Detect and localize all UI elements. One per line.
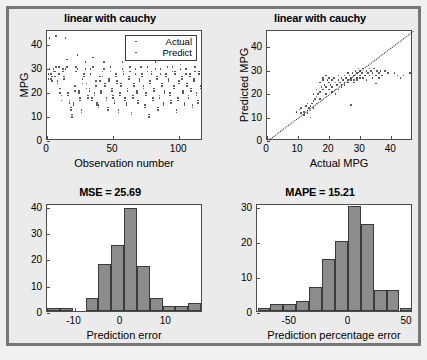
histogram-bar bbox=[86, 298, 99, 311]
scatter-point bbox=[145, 95, 147, 97]
scatter-point bbox=[359, 77, 361, 79]
y-tick-label: 20 bbox=[234, 237, 252, 248]
scatter-point bbox=[131, 112, 133, 114]
scatter-point bbox=[115, 73, 117, 75]
histogram-bar bbox=[309, 287, 322, 311]
y-tick-label: 10 bbox=[24, 111, 42, 122]
scatter-point bbox=[120, 83, 122, 85]
panel-4-title: MAPE = 15.21 bbox=[222, 186, 418, 198]
scatter-point bbox=[104, 83, 106, 85]
scatter-point bbox=[116, 83, 118, 85]
scatter-point bbox=[176, 112, 178, 114]
scatter-point bbox=[59, 92, 61, 94]
scatter-point bbox=[129, 66, 131, 68]
y-tick-label: 20 bbox=[24, 87, 42, 98]
scatter-point bbox=[169, 95, 171, 97]
scatter-point bbox=[82, 78, 84, 80]
scatter-point bbox=[89, 90, 91, 92]
scatter-point bbox=[133, 85, 135, 87]
scatter-point bbox=[104, 85, 106, 87]
scatter-point bbox=[107, 107, 109, 109]
scatter-point bbox=[51, 80, 53, 82]
scatter-point bbox=[127, 90, 129, 92]
scatter-point bbox=[165, 73, 167, 75]
scatter-point bbox=[63, 76, 65, 78]
scatter-point bbox=[79, 97, 81, 99]
scatter-point bbox=[122, 68, 124, 70]
panel-1-x-axis-label: Observation number bbox=[46, 157, 202, 169]
scatter-point bbox=[409, 72, 411, 74]
scatter-point bbox=[163, 104, 165, 106]
scatter-point bbox=[86, 83, 88, 85]
scatter-point bbox=[83, 76, 85, 78]
histogram-bar bbox=[296, 301, 309, 311]
panel-3-plot-area bbox=[46, 204, 202, 312]
scatter-point bbox=[347, 79, 349, 81]
scatter-point bbox=[178, 80, 180, 82]
scatter-point bbox=[152, 100, 154, 102]
scatter-point bbox=[148, 116, 150, 118]
scatter-point bbox=[57, 80, 59, 82]
x-tick-label: 50 bbox=[107, 143, 118, 154]
scatter-point bbox=[328, 77, 330, 79]
scatter-point bbox=[193, 78, 195, 80]
scatter-point bbox=[65, 68, 67, 70]
scatter-point bbox=[200, 85, 202, 87]
scatter-point bbox=[189, 73, 191, 75]
x-tick-mark bbox=[179, 136, 180, 139]
scatter-point bbox=[161, 83, 163, 85]
scatter-point bbox=[394, 72, 396, 74]
scatter-point bbox=[127, 88, 129, 90]
scatter-point bbox=[61, 100, 63, 102]
scatter-point bbox=[96, 102, 98, 104]
scatter-point bbox=[316, 96, 318, 98]
y-tick-label: 30 bbox=[244, 64, 262, 75]
scatter-point bbox=[144, 104, 146, 106]
scatter-point bbox=[160, 73, 162, 75]
scatter-point bbox=[131, 114, 133, 116]
scatter-point bbox=[350, 79, 352, 81]
scatter-point bbox=[144, 107, 146, 109]
scatter-point bbox=[341, 86, 343, 88]
scatter-point bbox=[367, 72, 369, 74]
scatter-point bbox=[78, 90, 80, 92]
x-tick-mark bbox=[329, 136, 330, 139]
panel-1-legend: Actual Predict bbox=[125, 35, 197, 61]
scatter-point bbox=[65, 37, 67, 39]
histogram-bar bbox=[137, 266, 150, 311]
scatter-point bbox=[87, 95, 89, 97]
scatter-point bbox=[353, 82, 355, 84]
x-tick-label: 30 bbox=[354, 143, 365, 154]
scatter-point bbox=[95, 80, 97, 82]
scatter-point bbox=[139, 80, 141, 82]
scatter-point bbox=[77, 54, 79, 56]
scatter-point bbox=[100, 90, 102, 92]
panel-2-title: linear with cauchy bbox=[222, 12, 418, 24]
scatter-point bbox=[342, 79, 344, 81]
scatter-point bbox=[380, 70, 382, 72]
scatter-point bbox=[58, 66, 60, 68]
scatter-point bbox=[67, 95, 69, 97]
panel-prediction-error-histogram: MSE = 25.69 Prediction error -1001001020… bbox=[12, 186, 208, 352]
scatter-point bbox=[148, 114, 150, 116]
y-tick-label: 0 bbox=[244, 135, 262, 146]
scatter-point bbox=[118, 112, 120, 114]
scatter-point bbox=[91, 97, 93, 99]
panel-4-plot-area bbox=[256, 204, 412, 312]
scatter-point bbox=[330, 84, 332, 86]
y-tick-label: 30 bbox=[24, 227, 42, 238]
y-tick-label: 40 bbox=[24, 201, 42, 212]
scatter-point bbox=[149, 83, 151, 85]
scatter-point bbox=[317, 93, 319, 95]
scatter-point bbox=[310, 117, 312, 119]
scatter-point bbox=[63, 78, 65, 80]
scatter-point bbox=[178, 83, 180, 85]
scatter-point bbox=[55, 66, 57, 68]
scatter-point bbox=[116, 80, 118, 82]
scatter-point bbox=[145, 92, 147, 94]
scatter-point bbox=[300, 112, 302, 114]
scatter-point bbox=[378, 72, 380, 74]
x-tick-mark bbox=[360, 136, 361, 139]
scatter-point bbox=[152, 97, 154, 99]
scatter-point bbox=[345, 77, 347, 79]
